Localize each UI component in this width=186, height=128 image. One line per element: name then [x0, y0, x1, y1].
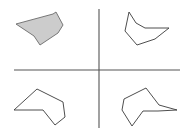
shape-quadrant-figure [0, 0, 186, 128]
figure-background [0, 0, 186, 128]
figure-canvas [0, 0, 186, 128]
